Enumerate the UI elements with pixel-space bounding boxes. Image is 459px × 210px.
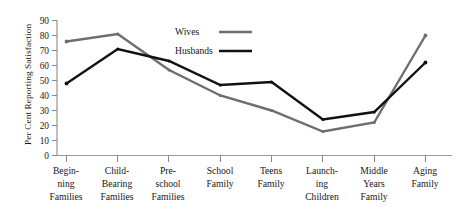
- y-tick-label: 30: [40, 106, 50, 116]
- y-tick-labels: 90 80 70 60 50 40 30 20 10 0: [40, 16, 50, 161]
- y-tick-label: 60: [40, 61, 50, 71]
- x-cat-label: Bearing: [102, 178, 133, 189]
- data-point: [65, 82, 69, 86]
- x-tick-marks: [67, 156, 426, 163]
- data-point: [270, 81, 273, 84]
- x-cat-label: Family: [360, 191, 387, 202]
- data-point: [65, 40, 69, 44]
- data-point: [321, 118, 324, 121]
- data-point: [116, 48, 119, 51]
- x-cat-label: School: [207, 165, 234, 176]
- y-tick-label: 70: [40, 46, 50, 56]
- data-point: [168, 60, 171, 63]
- x-cat-label: school: [155, 178, 180, 189]
- x-cat-label: Years: [363, 178, 385, 189]
- x-cat-label: Launch-: [306, 165, 338, 176]
- y-tick-label: 80: [40, 31, 50, 41]
- y-tick-label: 0: [44, 151, 49, 161]
- legend-label-husbands: Husbands: [175, 45, 213, 56]
- y-tick-label: 50: [40, 76, 50, 86]
- x-cat-label: Pre-: [160, 165, 176, 176]
- x-cat-label: Families: [100, 191, 133, 202]
- data-point: [424, 34, 428, 38]
- x-cat-label: Family: [257, 178, 284, 189]
- y-tick-label: 20: [40, 121, 50, 131]
- data-point: [424, 61, 428, 65]
- x-cat-label: ning: [57, 178, 74, 189]
- data-point: [373, 111, 376, 114]
- data-point: [373, 121, 376, 124]
- data-point: [219, 94, 222, 97]
- data-point: [168, 69, 171, 72]
- y-tick-label: 10: [40, 136, 50, 146]
- chart-container: Per Cent Reporting Satisfaction 90 80 70…: [0, 0, 459, 210]
- x-cat-label: Child-: [105, 165, 130, 176]
- x-cat-label: Begin-: [53, 165, 79, 176]
- legend: Wives Husbands: [175, 26, 252, 56]
- y-tick-label: 90: [40, 16, 50, 26]
- x-cat-label: Family: [411, 178, 438, 189]
- data-point: [116, 33, 119, 36]
- y-tick-marks: [52, 21, 57, 156]
- x-cat-label: Aging: [413, 165, 437, 176]
- data-point: [219, 84, 222, 87]
- series-line-husbands: [67, 49, 426, 120]
- data-point: [270, 109, 273, 112]
- line-chart-plot: Per Cent Reporting Satisfaction 90 80 70…: [0, 0, 459, 210]
- x-cat-label: Families: [151, 191, 184, 202]
- data-point: [321, 130, 324, 133]
- x-cat-label: Family: [206, 178, 233, 189]
- x-cat-label: Teens: [260, 165, 283, 176]
- y-tick-label: 40: [40, 91, 50, 101]
- x-cat-label: Children: [305, 191, 339, 202]
- y-axis-label: Per Cent Reporting Satisfaction: [23, 23, 33, 145]
- x-cat-label: Families: [49, 191, 82, 202]
- x-axis-category-labels: Begin- ning Families Child- Bearing Fami…: [49, 165, 438, 202]
- x-cat-label: Middle: [360, 165, 388, 176]
- x-cat-label: ing: [316, 178, 328, 189]
- legend-label-wives: Wives: [175, 26, 199, 37]
